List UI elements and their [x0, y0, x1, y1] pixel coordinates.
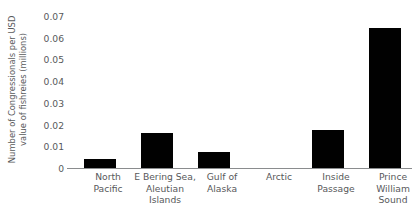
y-axis-title-line-1: Number of Congressionals per USD	[8, 15, 19, 163]
x-axis-tick-labels: North Pacific E Bering Sea, Aleutian Isl…	[67, 171, 412, 217]
y-tick-label: 0.06	[44, 34, 64, 43]
y-tick-label: 0.01	[44, 142, 64, 151]
y-tick-label: 0.03	[44, 99, 64, 108]
y-axis-title: Number of Congressionals per USD value o…	[0, 0, 38, 178]
y-tick-label: 0.05	[44, 55, 64, 64]
x-axis-line	[67, 168, 412, 169]
bar-prince-william-sound	[369, 28, 401, 168]
plot-area	[67, 0, 412, 169]
bar-gulf-of-alaska	[198, 152, 230, 168]
x-tick-label-prince-william-sound: Prince William Sound	[348, 171, 419, 206]
x-tick-label-line: Alaska	[177, 183, 267, 195]
bar-e-bering-sea-aleutian-islands	[141, 133, 173, 168]
bar-north-pacific	[84, 159, 116, 168]
y-tick-label: 0.02	[44, 121, 64, 130]
y-tick-label: 0.07	[44, 12, 64, 21]
x-tick-label-line: Sound	[348, 194, 419, 206]
y-axis-tick-labels: 0.07 0.06 0.05 0.04 0.03 0.02 0.01 0	[36, 0, 64, 178]
bar-chart: Number of Congressionals per USD value o…	[0, 0, 419, 217]
bar-inside-passage	[312, 130, 344, 168]
y-axis-title-line-2: value of fishreies (millions)	[19, 15, 30, 163]
x-tick-label-line: Islands	[120, 194, 210, 206]
y-tick-label: 0.04	[44, 77, 64, 86]
x-tick-label-line: William	[348, 183, 419, 195]
x-tick-label-line: Prince	[348, 171, 419, 183]
